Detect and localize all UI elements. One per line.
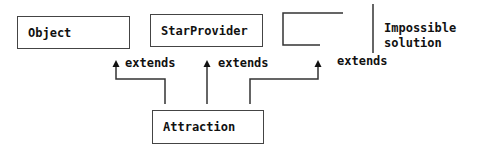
open-bracket [283, 13, 343, 45]
arrowhead-icon [315, 60, 322, 67]
note-line-2: solution [384, 36, 456, 51]
class-box-starprovider: StarProvider [150, 14, 263, 47]
note-line-1: Impossible [384, 21, 456, 36]
class-box-attraction: Attraction [152, 110, 264, 144]
extends-label: extends [337, 54, 388, 68]
note: Impossible solution [384, 21, 456, 51]
arrow-to-object [116, 66, 165, 104]
class-name: Object [28, 26, 71, 40]
arrowhead-icon [113, 60, 120, 67]
extends-label: extends [218, 56, 269, 70]
class-name: StarProvider [161, 24, 248, 38]
extends-label: extends [125, 56, 176, 70]
arrowhead-icon [204, 60, 211, 67]
class-name: Attraction [163, 120, 235, 134]
class-box-object: Object [17, 16, 130, 49]
arrow-to-third [250, 66, 318, 104]
